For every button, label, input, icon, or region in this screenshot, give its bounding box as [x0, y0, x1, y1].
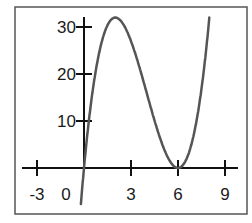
x-tick-label: 6: [173, 185, 182, 204]
y-tick-label: 10: [57, 112, 76, 131]
x-tick-label: 9: [220, 185, 229, 204]
x-tick-label: 3: [126, 185, 135, 204]
x-tick-label: 0: [61, 185, 70, 204]
function-graph: -30369102030: [0, 0, 252, 223]
x-tick-label: -3: [29, 185, 44, 204]
y-tick-label: 30: [57, 18, 76, 37]
y-tick-label: 20: [57, 65, 76, 84]
